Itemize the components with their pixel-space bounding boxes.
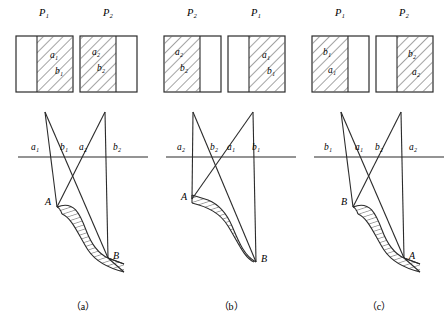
panel-a-terrain: A B <box>44 196 124 272</box>
panel-c-point-lower: A <box>408 250 416 261</box>
panel-b-baseline-label-2: b₂ <box>210 142 219 152</box>
panel-a-plate-p1: P₁ a₁ b₁ <box>16 7 73 92</box>
panel-a-plate-p1-label-bottom: b₁ <box>55 66 63 76</box>
panel-a-caption: （a） <box>71 301 95 312</box>
panel-c-plate-p1: P₁ b₁ a₁ <box>312 7 369 92</box>
panel-a-rays <box>45 112 108 258</box>
panel-c-plate-p1-label-top: b₁ <box>323 47 331 57</box>
panel-c-rays <box>341 112 404 258</box>
panel-a-baseline-label-2: b₁ <box>60 142 68 152</box>
panel-a-baseline-label-4: b₂ <box>113 142 122 152</box>
panel-b-baseline-labels: a₂ b₂ a₁ b₁ <box>177 142 260 152</box>
panel-a-plate-p1-title: P₁ <box>38 7 49 18</box>
panel-a-plate-p2-label-top: a₂ <box>92 47 101 57</box>
panel-a-plate-p2-title: P₂ <box>102 7 113 18</box>
panel-b-baseline-label-1: a₂ <box>177 142 186 152</box>
panel-c-plate-p2-label-top: b₂ <box>408 49 417 59</box>
panel-b-plate-p1-title: P₁ <box>250 7 261 18</box>
panel-b-baseline-label-3: a₁ <box>227 142 235 152</box>
panel-c-plate-p2: P₂ b₂ a₂ <box>376 7 433 92</box>
panel-b-baseline-label-4: b₁ <box>252 142 260 152</box>
panel-c-plate-p2-label-bottom: a₂ <box>412 67 421 77</box>
panel-a-plate-p2-label-bottom: b₂ <box>97 63 106 73</box>
panel-c-point-upper: B <box>341 196 347 207</box>
panel-b-plate-p2: P₂ a₂ b₂ <box>164 7 221 92</box>
panel-a-point-upper: A <box>44 196 52 207</box>
panel-b-plate-p2-label-top: a₂ <box>175 47 184 57</box>
panel-c-baseline-label-3: b₂ <box>375 142 384 152</box>
panel-c-plate-p1-label-bottom: a₁ <box>328 65 336 75</box>
panel-a-baseline-label-1: a₁ <box>31 142 39 152</box>
panel-b-point-upper: B <box>261 253 267 264</box>
panel-a-baseline-labels: a₁ b₁ a₂ b₂ <box>31 142 122 152</box>
panel-c-baseline-label-4: a₂ <box>409 142 418 152</box>
panel-b-plate-p1: P₁ a₁ b₁ <box>228 7 285 92</box>
panel-a-baseline-label-3: a₂ <box>79 142 88 152</box>
panel-b-rays <box>192 112 256 262</box>
panel-b-point-lower: A <box>180 191 188 202</box>
panel-b-plate-p1-label-bottom: b₁ <box>267 66 275 76</box>
panel-b-terrain: B A <box>180 191 267 264</box>
panel-b-caption: （b） <box>219 301 244 312</box>
panel-c-plate-p1-title: P₁ <box>334 7 345 18</box>
panel-c-plate-p2-title: P₂ <box>398 7 409 18</box>
panel-c: P₁ b₁ a₁ P₂ b₂ a₂ b₁ a₁ <box>312 7 444 312</box>
panel-a-plate-p2: P₂ a₂ b₂ <box>80 7 137 92</box>
panel-c-baseline-label-2: a₁ <box>355 142 363 152</box>
diagram-svg: P₁ a₁ b₁ P₂ a₂ b₂ <box>0 0 448 332</box>
figure-canvas: P₁ a₁ b₁ P₂ a₂ b₂ <box>0 0 448 332</box>
panel-b-plate-p1-label-top: a₁ <box>262 50 270 60</box>
panel-c-caption: （c） <box>367 301 391 312</box>
panel-c-baseline-labels: b₁ a₁ b₂ a₂ <box>324 142 418 152</box>
panel-a: P₁ a₁ b₁ P₂ a₂ b₂ <box>16 7 148 312</box>
panel-a-point-lower: B <box>113 250 119 261</box>
panel-c-terrain: B A <box>341 196 420 272</box>
panel-c-baseline-label-1: b₁ <box>324 142 332 152</box>
panel-b-plate-p2-label-bottom: b₂ <box>180 63 189 73</box>
panel-a-plate-p1-label-top: a₁ <box>50 50 58 60</box>
panel-b-plate-p2-title: P₂ <box>186 7 197 18</box>
panel-b: P₂ a₂ b₂ P₁ a₁ b₁ a₂ b₂ <box>164 7 296 312</box>
